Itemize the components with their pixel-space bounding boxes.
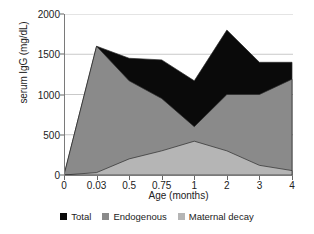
plot-area: [64, 14, 293, 176]
chart-figure: serum IgG (mg/dL) 0500100015002000 00.03…: [0, 0, 314, 234]
legend-label: Total: [71, 211, 91, 222]
y-axis-tick-labels: 0500100015002000: [20, 14, 64, 176]
legend-swatch-icon: [60, 213, 67, 220]
legend-swatch-icon: [102, 213, 109, 220]
y-tick-label: 2000: [38, 9, 60, 20]
x-axis-title: Age (months): [64, 190, 293, 201]
legend-swatch-icon: [178, 213, 185, 220]
legend-item[interactable]: Total: [60, 211, 91, 222]
y-tick-label: 1500: [38, 49, 60, 60]
y-axis-line: [64, 14, 65, 176]
y-tick-label: 500: [43, 129, 60, 140]
area-chart-svg: [64, 14, 293, 176]
series-layer: [64, 30, 292, 175]
legend-label: Endogenous: [113, 211, 166, 222]
y-tick-label: 1000: [38, 89, 60, 100]
legend-item[interactable]: Maternal decay: [178, 211, 254, 222]
chart-legend: TotalEndogenousMaternal decay: [0, 211, 314, 222]
legend-item[interactable]: Endogenous: [102, 211, 166, 222]
legend-label: Maternal decay: [189, 211, 254, 222]
